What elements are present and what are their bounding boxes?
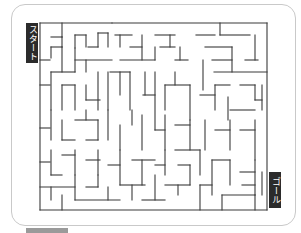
goal-label: ゴール [269, 172, 281, 208]
start-label: スタート [26, 23, 38, 63]
maze-grid [0, 0, 301, 233]
